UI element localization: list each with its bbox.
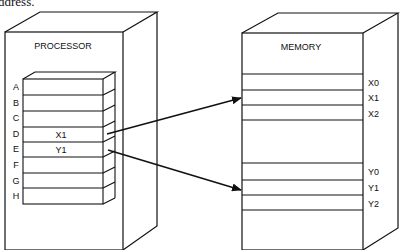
caption-fragment: ddress. <box>0 0 34 9</box>
register-stack <box>23 72 115 204</box>
memory-label-y1: Y1 <box>368 183 379 193</box>
register-label-d: D <box>13 129 20 139</box>
register-label-g: G <box>12 176 19 186</box>
memory-labels: X0 X1 X2 Y0 Y1 Y2 <box>368 78 379 209</box>
register-e-value: Y1 <box>55 145 66 155</box>
memory-title: MEMORY <box>281 42 321 52</box>
register-d-value: X1 <box>55 130 66 140</box>
memory-label-x1: X1 <box>368 93 379 103</box>
memory-label-x2: X2 <box>368 109 379 119</box>
register-label-h: H <box>13 191 20 201</box>
memory-label-y0: Y0 <box>368 167 379 177</box>
register-label-a: A <box>13 82 19 92</box>
processor-title: PROCESSOR <box>34 41 92 51</box>
arrow-e-to-y1 <box>108 150 241 190</box>
register-label-e: E <box>13 144 19 154</box>
processor-memory-diagram: ddress. PROCESSOR A B C D E F G H X1 Y1 <box>0 0 400 250</box>
memory-label-x0: X0 <box>368 78 379 88</box>
memory-label-y2: Y2 <box>368 199 379 209</box>
register-label-f: F <box>13 160 19 170</box>
register-label-b: B <box>13 98 19 108</box>
register-label-c: C <box>13 113 20 123</box>
arrow-d-to-x1 <box>107 98 241 134</box>
